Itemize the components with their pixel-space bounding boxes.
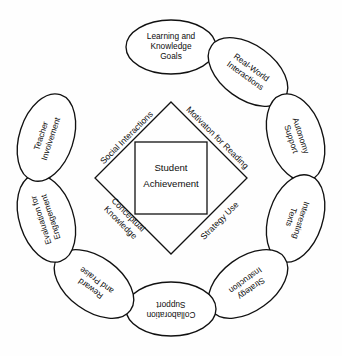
diagram-canvas: Learning andKnowledgeGoalsReal-WorldInte… — [0, 0, 342, 356]
ring-label-learning-and-knowledge-goals-line1: Learning and — [147, 31, 196, 41]
ring-node-teacher-involvement: TeacherInvolvement — [7, 86, 86, 188]
ring-label-learning-and-knowledge-goals-line3: Goals — [160, 51, 182, 61]
ring-label-collaboration-support-line2: Support — [156, 300, 186, 310]
center-square-label-line1: Student — [154, 162, 187, 173]
ring-label-learning-and-knowledge-goals-line2: Knowledge — [150, 41, 191, 51]
ring-label-collaboration-support-line1: Collaboration — [146, 310, 195, 320]
ring-node-learning-and-knowledge-goals: Learning andKnowledgeGoals — [126, 20, 216, 74]
ring-node-collaboration-support: CollaborationSupport — [126, 282, 216, 336]
engagement-model-diagram: Learning andKnowledgeGoalsReal-WorldInte… — [0, 0, 342, 356]
center-diamond-group: Student Achievement — [95, 102, 247, 254]
center-square-label-line2: Achievement — [143, 178, 199, 189]
